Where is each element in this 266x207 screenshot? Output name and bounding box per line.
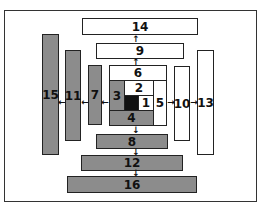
- block-5: 5: [153, 80, 167, 126]
- block-16-label: 16: [124, 179, 141, 191]
- arrow-left-icon: ←: [101, 98, 109, 106]
- block-11-label: 11: [65, 90, 82, 102]
- block-8-label: 8: [128, 136, 136, 148]
- arrow-right-icon: →: [190, 98, 198, 106]
- block-center-black: [124, 95, 139, 111]
- block-11: 11: [65, 50, 81, 141]
- block-1: 1: [138, 95, 154, 111]
- block-10: 9: [96, 43, 184, 59]
- block-7: 7: [88, 65, 102, 125]
- arrow-down-icon: ↓: [132, 169, 140, 177]
- arrow-down-icon: ↓: [132, 126, 140, 134]
- block-9: 10: [174, 66, 190, 141]
- block-7-label: 7: [91, 89, 99, 101]
- block-15: 15: [42, 34, 59, 155]
- block-2: 2: [124, 80, 154, 96]
- arrow-left-icon: ←: [81, 98, 89, 106]
- block-14: 14: [82, 18, 198, 35]
- arrow-up-icon: ↑: [132, 58, 140, 66]
- arrow-right-icon: →: [167, 98, 175, 106]
- arrow-up-icon: ↑: [132, 35, 140, 43]
- block-6-label: 6: [134, 67, 142, 79]
- block-2-label: 2: [135, 82, 143, 94]
- block-16: 16: [67, 176, 197, 193]
- arrow-left-icon: ←: [58, 98, 66, 106]
- arrow-down-icon: ↓: [132, 148, 140, 156]
- block-4: 4: [109, 110, 154, 126]
- block-1-label: 1: [142, 97, 150, 109]
- block-3-label: 3: [113, 90, 121, 102]
- block-6: 6: [109, 65, 167, 81]
- block-9-label: 10: [174, 98, 191, 110]
- block-3: 3: [109, 80, 125, 111]
- block-5-label: 5: [156, 97, 164, 109]
- block-10-label: 9: [136, 45, 144, 57]
- block-15-label: 15: [42, 89, 59, 101]
- block-13: 13: [197, 50, 214, 155]
- block-4-label: 4: [127, 112, 135, 124]
- block-13-label: 13: [197, 97, 214, 109]
- block-14-label: 14: [132, 21, 149, 33]
